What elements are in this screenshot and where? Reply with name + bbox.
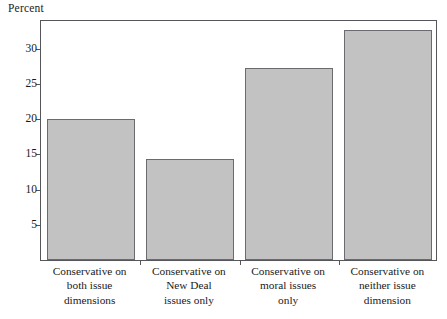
x-axis-category-label: Conservative onboth issuedimensions	[40, 264, 139, 307]
y-axis-tick-label: 20	[26, 113, 38, 125]
x-axis-category-label-line: dimensions	[40, 293, 139, 307]
bar	[47, 119, 135, 260]
x-axis-category-label-line: Conservative on	[338, 264, 437, 278]
x-axis-category-label-line: Conservative on	[139, 264, 238, 278]
x-axis-category-labels: Conservative onboth issuedimensionsConse…	[40, 264, 437, 318]
y-axis-title: Percent	[8, 2, 44, 14]
x-axis-category-label-line: Conservative on	[40, 264, 139, 278]
y-axis-tick-label: 10	[26, 184, 38, 196]
bar-chart-figure: Percent 51015202530 Conservative onboth …	[0, 0, 447, 319]
y-axis-tick-label: 25	[26, 78, 38, 90]
x-axis-category-label: Conservative onNew Dealissues only	[139, 264, 238, 307]
x-axis-category-label-line: issues only	[139, 293, 238, 307]
x-axis-category-label-line: Conservative on	[239, 264, 338, 278]
x-axis-category-label-line: New Deal	[139, 278, 238, 292]
y-axis-tick-label: 5	[31, 219, 37, 231]
x-axis-category-label-line: dimension	[338, 293, 437, 307]
x-axis-category-label-line: only	[239, 293, 338, 307]
bar	[245, 68, 333, 260]
plot-frame: 51015202530	[40, 20, 437, 261]
bar	[344, 30, 432, 260]
y-axis-tick-label: 15	[26, 149, 38, 161]
y-axis-tick-label: 30	[26, 43, 38, 55]
plot-area: 51015202530	[41, 21, 436, 260]
x-axis-category-label-line: both issue	[40, 278, 139, 292]
x-axis-category-label-line: moral issues	[239, 278, 338, 292]
x-axis-category-label-line: neither issue	[338, 278, 437, 292]
x-axis-category-label: Conservative onmoral issuesonly	[239, 264, 338, 307]
bar	[146, 159, 234, 260]
x-axis-category-label: Conservative onneither issuedimension	[338, 264, 437, 307]
